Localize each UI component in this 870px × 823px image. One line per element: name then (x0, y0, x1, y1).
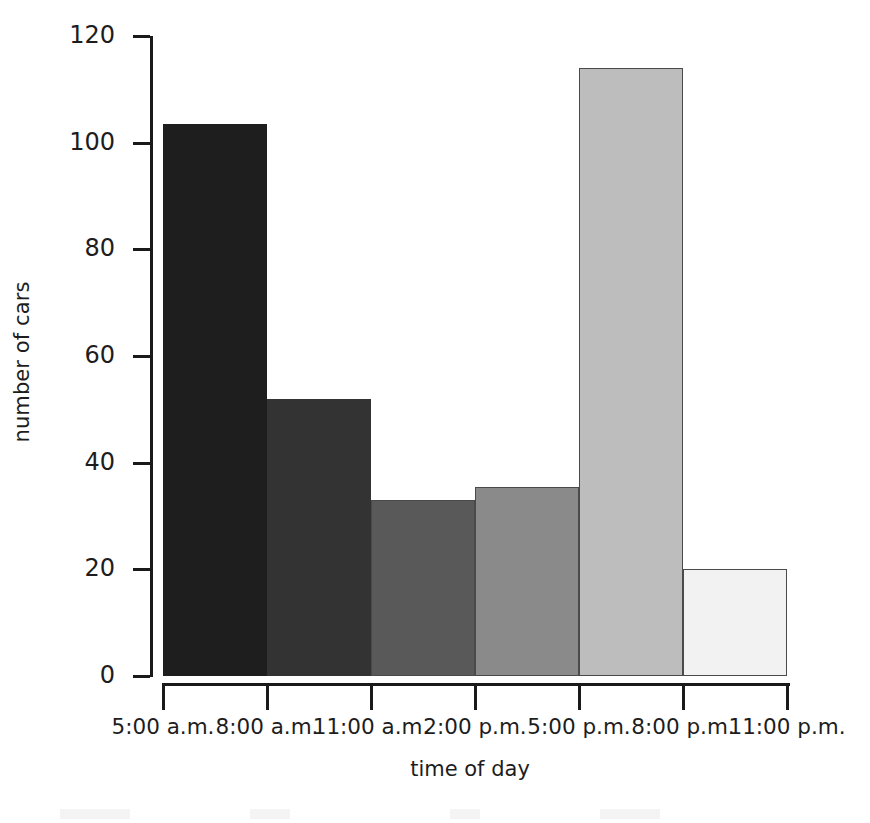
y-tick-mark (133, 355, 150, 358)
y-tick-label: 40 (55, 450, 115, 474)
y-tick-mark (133, 142, 150, 145)
x-tick-label: 2:00 p.m. (423, 716, 526, 738)
bar (475, 487, 579, 676)
x-tick-label: 11:00 a.m. (313, 716, 430, 738)
x-tick-label: 5:00 a.m. (112, 716, 215, 738)
bar-chart-figure: number of cars time of day 0204060801001… (0, 0, 870, 823)
scan-artifact (450, 809, 480, 819)
bar (371, 500, 475, 676)
y-tick-label: 60 (55, 343, 115, 367)
y-tick-label: 0 (55, 663, 115, 687)
scan-artifact (250, 809, 290, 819)
bar (163, 124, 267, 676)
y-axis-line (150, 36, 153, 677)
y-tick-label: 100 (55, 130, 115, 154)
x-tick-mark (682, 683, 685, 710)
y-axis-label: number of cars (10, 262, 34, 462)
y-tick-mark (133, 675, 150, 678)
bar (579, 68, 683, 676)
bar (267, 399, 371, 676)
x-tick-mark (266, 683, 269, 710)
x-tick-mark (162, 683, 165, 710)
y-tick-mark (133, 462, 150, 465)
x-tick-mark (786, 683, 789, 710)
x-tick-mark (370, 683, 373, 710)
scan-artifact (600, 809, 660, 819)
x-axis-label: time of day (150, 757, 790, 781)
x-tick-label: 11:00 p.m. (728, 716, 845, 738)
y-tick-label: 80 (55, 236, 115, 260)
y-tick-label: 20 (55, 556, 115, 580)
y-tick-mark (133, 568, 150, 571)
x-tick-label: 5:00 p.m. (527, 716, 630, 738)
bar (683, 569, 787, 676)
plot-area (163, 36, 787, 676)
y-tick-mark (133, 248, 150, 251)
x-tick-mark (578, 683, 581, 710)
y-tick-label: 120 (55, 23, 115, 47)
x-tick-label: 8:00 p.m. (631, 716, 734, 738)
x-tick-mark (474, 683, 477, 710)
scan-artifact (60, 809, 130, 819)
x-tick-label: 8:00 a.m. (216, 716, 319, 738)
y-tick-mark (133, 35, 150, 38)
